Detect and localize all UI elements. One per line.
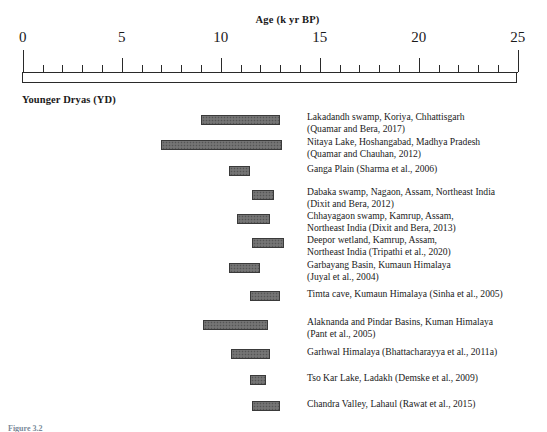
record-label: Timta cave, Kumaun Himalaya (Sinha et al…	[307, 288, 503, 300]
range-bar	[237, 214, 271, 224]
range-bar	[229, 166, 251, 176]
range-bar	[231, 349, 271, 359]
record-label: Garbayang Basin, Kumaun Himalaya (Juyal …	[307, 259, 451, 282]
range-bar	[252, 190, 274, 200]
range-bar	[252, 401, 280, 411]
record-label: Garhwal Himalaya (Bhattacharayya et al.,…	[307, 346, 497, 358]
range-bar	[203, 320, 268, 330]
range-bar	[252, 238, 284, 248]
record-label: Lakadandh swamp, Koriya, Chhattisgarh (Q…	[307, 111, 464, 134]
range-bar	[201, 115, 280, 125]
record-label: Dabaka swamp, Nagaon, Assam, Northeast I…	[307, 186, 495, 209]
record-rows: Lakadandh swamp, Koriya, Chhattisgarh (Q…	[0, 0, 547, 432]
record-label: Ganga Plain (Sharma et al., 2006)	[307, 163, 437, 175]
range-bar	[229, 263, 261, 273]
figure-caption: Figure 3.2	[8, 424, 43, 432]
record-label: Chhayagaon swamp, Kamrup, Assam, Northea…	[307, 210, 456, 233]
range-bar	[161, 140, 282, 150]
record-label: Nitaya Lake, Hoshangabad, Madhya Pradesh…	[307, 136, 480, 159]
record-label: Chandra Valley, Lahaul (Rawat et al., 20…	[307, 398, 475, 410]
record-label: Deepor wetland, Kamrup, Assam, Northeast…	[307, 234, 451, 257]
range-bar	[250, 375, 266, 385]
record-label: Tso Kar Lake, Ladakh (Demske et al., 200…	[307, 372, 478, 384]
figure-younger-dryas-chart: Age (k yr BP) 0510152025 Younger Dryas (…	[0, 0, 547, 432]
record-label: Alaknanda and Pindar Basins, Kuman Himal…	[307, 316, 493, 339]
range-bar	[250, 291, 280, 301]
